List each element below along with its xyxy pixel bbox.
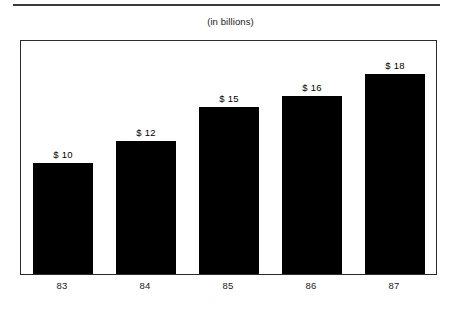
bar-value-label-84: $ 12 — [116, 127, 176, 138]
bar-value-label-87: $ 18 — [365, 60, 425, 71]
bar-83 — [33, 163, 93, 274]
x-tick-label-83: 83 — [32, 280, 92, 291]
chart-frame: $ 10$ 12$ 15$ 16$ 18 — [20, 40, 437, 275]
plot-area: $ 10$ 12$ 15$ 16$ 18 — [21, 41, 436, 274]
x-axis: 8384858687 — [20, 280, 437, 296]
bar-87 — [365, 74, 425, 274]
bar-86 — [282, 96, 342, 274]
x-tick-label-85: 85 — [198, 280, 258, 291]
x-tick-label-87: 87 — [364, 280, 424, 291]
chart-caption: (in billions) — [0, 16, 461, 27]
bar-value-label-85: $ 15 — [199, 93, 259, 104]
x-tick-label-86: 86 — [281, 280, 341, 291]
bar-84 — [116, 141, 176, 274]
x-tick-label-84: 84 — [115, 280, 175, 291]
top-divider-rule — [13, 4, 440, 6]
bar-value-label-86: $ 16 — [282, 82, 342, 93]
bar-85 — [199, 107, 259, 274]
bar-value-label-83: $ 10 — [33, 149, 93, 160]
